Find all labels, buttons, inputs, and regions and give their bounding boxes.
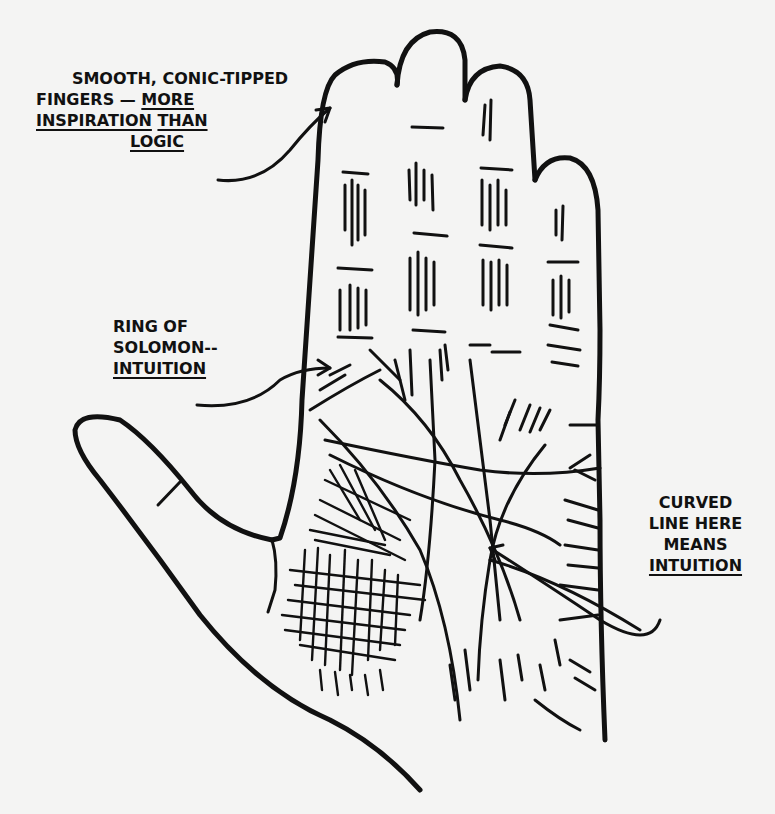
annotation-ring-of-solomon: RING OF SOLOMON-- INTUITION	[113, 316, 218, 379]
annotation-text-underlined: INTUITION	[649, 556, 742, 575]
annotation-line: CURVED	[628, 492, 763, 513]
annotation-line: LOGIC	[30, 131, 330, 152]
annotation-line: INTUITION	[628, 555, 763, 576]
annotation-text-underlined: THAN	[157, 111, 207, 130]
annotation-line: SMOOTH, CONIC-TIPPED	[30, 68, 330, 89]
annotation-line: FINGERS — MORE	[30, 89, 330, 110]
annotation-text-underlined: LOGIC	[130, 132, 184, 151]
finger-creases	[158, 100, 580, 505]
annotation-text: FINGERS —	[36, 90, 141, 109]
annotation-line: SOLOMON--	[113, 337, 218, 358]
palmistry-diagram: SMOOTH, CONIC-TIPPED FINGERS — MORE INSP…	[0, 0, 775, 814]
annotation-line: INTUITION	[113, 358, 218, 379]
annotation-line: RING OF	[113, 316, 218, 337]
annotation-text-underlined: INTUITION	[113, 359, 206, 378]
crosshatch-mount	[282, 465, 425, 695]
annotation-line: MEANS	[628, 534, 763, 555]
annotation-curved-line: CURVED LINE HERE MEANS INTUITION	[628, 492, 763, 576]
annotation-text-underlined: INSPIRATION	[36, 111, 152, 130]
annotation-line: LINE HERE	[628, 513, 763, 534]
annotation-text-underlined: MORE	[141, 90, 194, 109]
annotation-fingers: SMOOTH, CONIC-TIPPED FINGERS — MORE INSP…	[30, 68, 330, 152]
annotation-line: INSPIRATION THAN	[30, 110, 330, 131]
